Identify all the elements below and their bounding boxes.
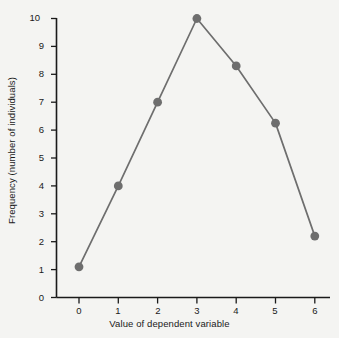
y-tick-label-9: 9 (26, 40, 44, 51)
y-tick-label-4: 4 (26, 180, 44, 191)
y-axis-ticks (51, 19, 57, 298)
y-tick-label-1: 1 (26, 264, 44, 275)
x-tick-label-2: 2 (149, 305, 167, 316)
y-axis-title-container: Frequency (number of individuals) (0, 0, 22, 300)
x-tick-label-4: 4 (227, 305, 245, 316)
y-tick-label-5: 5 (26, 152, 44, 163)
x-tick-label-1: 1 (109, 305, 127, 316)
x-axis-title: Value of dependent variable (0, 318, 339, 329)
y-axis-title: Frequency (number of individuals) (6, 77, 17, 224)
chart-figure: 0 1 2 3 4 5 6 7 8 9 10 0 1 2 3 4 5 6 Val… (0, 0, 339, 338)
y-tick-label-10: 10 (22, 12, 40, 23)
data-point-marker (271, 119, 280, 128)
data-point-marker (310, 232, 319, 241)
y-tick-label-7: 7 (26, 96, 44, 107)
y-tick-label-0: 0 (26, 292, 44, 303)
y-tick-label-3: 3 (26, 208, 44, 219)
data-point-marker (114, 182, 123, 191)
data-point-marker (75, 262, 84, 271)
data-point-marker (193, 14, 202, 23)
x-tick-label-0: 0 (70, 305, 88, 316)
x-tick-label-5: 5 (266, 305, 284, 316)
x-tick-label-3: 3 (188, 305, 206, 316)
data-point-marker (232, 62, 241, 71)
data-point-marker (153, 98, 162, 107)
line-chart-plot (0, 0, 339, 338)
y-tick-label-2: 2 (26, 236, 44, 247)
x-axis-ticks (79, 298, 315, 304)
data-line (79, 19, 315, 267)
y-tick-label-8: 8 (26, 68, 44, 79)
y-tick-label-6: 6 (26, 124, 44, 135)
x-tick-label-6: 6 (306, 305, 324, 316)
